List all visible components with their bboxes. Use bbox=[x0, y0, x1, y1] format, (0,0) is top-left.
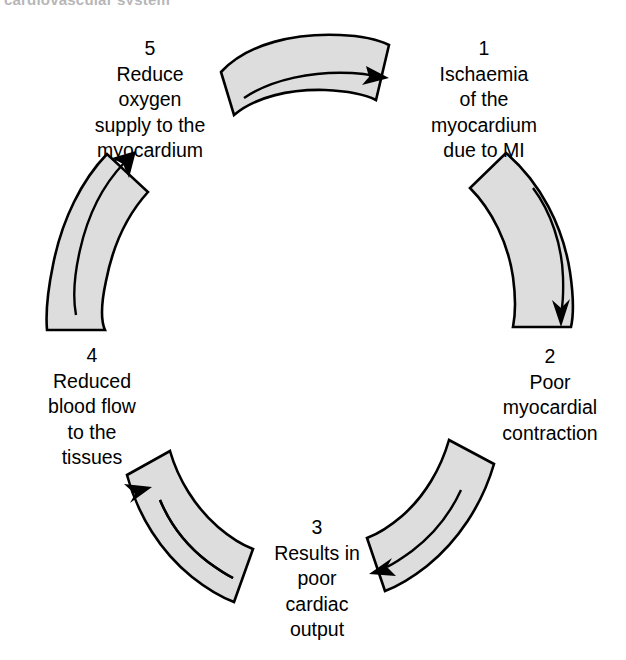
step-text-1-line-4: due to MI bbox=[400, 138, 568, 164]
step-label-1: 1 Ischaemia of the myocardium due to MI bbox=[400, 36, 568, 164]
step-number-2: 2 bbox=[474, 344, 626, 370]
step-text-5-line-3: supply to the bbox=[44, 113, 256, 139]
arrow-left bbox=[47, 151, 148, 330]
step-label-2: 2 Poor myocardial contraction bbox=[474, 344, 626, 446]
step-label-4: 4 Reduced blood flow to the tissues bbox=[10, 343, 174, 471]
cycle-diagram: cardiovascular system bbox=[0, 0, 626, 660]
step-text-3-line-3: cardiac bbox=[232, 592, 402, 618]
step-number-1: 1 bbox=[400, 36, 568, 62]
step-number-4: 4 bbox=[10, 343, 174, 369]
step-label-5: 5 Reduce oxygen supply to the myocardium bbox=[44, 36, 256, 164]
step-text-3-line-1: Results in bbox=[232, 541, 402, 567]
step-text-2-line-2: myocardial bbox=[474, 395, 626, 421]
step-text-5-line-4: myocardium bbox=[44, 138, 256, 164]
step-text-4-line-2: blood flow bbox=[10, 394, 174, 420]
step-number-3: 3 bbox=[232, 515, 402, 541]
step-text-3-line-2: poor bbox=[232, 566, 402, 592]
step-text-1-line-2: of the bbox=[400, 87, 568, 113]
step-text-3-line-4: output bbox=[232, 617, 402, 643]
step-text-2-line-3: contraction bbox=[474, 421, 626, 447]
step-text-4-line-4: tissues bbox=[10, 445, 174, 471]
step-text-1-line-1: Ischaemia bbox=[400, 62, 568, 88]
step-text-2-line-1: Poor bbox=[474, 370, 626, 396]
step-text-5-line-1: Reduce bbox=[44, 62, 256, 88]
arrow-right bbox=[470, 153, 573, 327]
step-text-1-line-3: myocardium bbox=[400, 113, 568, 139]
step-number-5: 5 bbox=[44, 36, 256, 62]
step-text-5-line-2: oxygen bbox=[44, 87, 256, 113]
step-label-3: 3 Results in poor cardiac output bbox=[232, 515, 402, 643]
step-text-4-line-3: to the bbox=[10, 420, 174, 446]
step-text-4-line-1: Reduced bbox=[10, 369, 174, 395]
